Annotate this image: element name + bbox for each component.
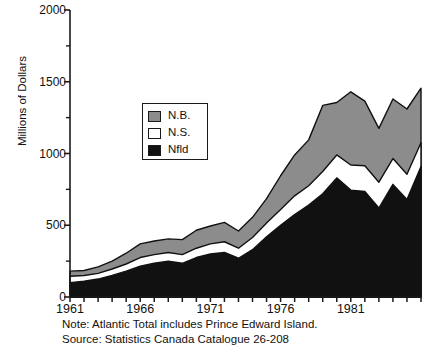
legend-label-nfld: Nfld xyxy=(168,144,188,156)
source-text: Source: Statistics Canada Catalogue 26-2… xyxy=(62,333,289,345)
legend-item-nb: N.B. xyxy=(148,108,207,124)
plot-area xyxy=(0,0,435,355)
legend-label-nb: N.B. xyxy=(168,110,190,122)
legend-swatch-nb-icon xyxy=(148,111,161,122)
chart-figure: Millions of Dollars 0500100015002000 196… xyxy=(0,0,435,355)
legend-swatch-ns-icon xyxy=(148,128,161,139)
legend-swatch-nfld-icon xyxy=(148,145,161,156)
chart-legend: N.B. N.S. Nfld xyxy=(142,103,208,160)
legend-item-nfld: Nfld xyxy=(148,142,207,158)
note-text: Note: Atlantic Total includes Prince Edw… xyxy=(62,318,317,330)
legend-label-ns: N.S. xyxy=(168,127,190,139)
legend-item-ns: N.S. xyxy=(148,125,207,141)
